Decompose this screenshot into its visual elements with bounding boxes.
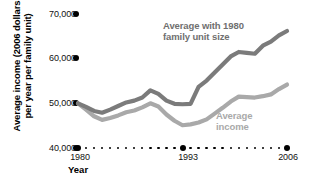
series-annotation-average-income: Average income — [216, 110, 252, 132]
annotation-light-line-1: Average — [216, 110, 252, 121]
x-axis-minor-marker — [165, 147, 167, 149]
x-axis-minor-marker — [221, 147, 223, 149]
x-axis-major-marker-2006 — [284, 145, 290, 151]
x-axis-minor-marker — [197, 147, 199, 149]
x-axis-minor-marker — [149, 147, 151, 149]
x-axis-minor-marker — [205, 147, 207, 149]
plot-area — [0, 0, 309, 181]
annotation-dark-line-1: Average with 1980 — [163, 20, 244, 31]
x-tick-label-2006: 2006 — [270, 152, 306, 162]
x-tick-label-1980: 1980 — [62, 152, 98, 162]
series-annotation-average-with-1980-family-unit-size: Average with 1980 family unit size — [163, 20, 244, 42]
x-tick-label-1993: 1993 — [170, 152, 206, 162]
annotation-light-line-2: income — [216, 121, 252, 132]
x-axis-major-marker-1980 — [75, 145, 81, 151]
x-axis-minor-marker — [157, 147, 159, 149]
x-axis-minor-marker — [230, 147, 232, 149]
x-axis-minor-marker — [213, 147, 215, 149]
income-line-chart: Average income (2006 dollars per year pe… — [0, 0, 309, 181]
x-axis-minor-marker — [173, 147, 175, 149]
series-line-average-with-1980-family-unit-size — [78, 31, 287, 113]
x-axis-minor-marker — [189, 147, 191, 149]
annotation-dark-line-2: family unit size — [163, 31, 244, 42]
x-axis-major-marker-1993 — [180, 145, 186, 151]
x-axis-title: Year — [68, 164, 88, 175]
